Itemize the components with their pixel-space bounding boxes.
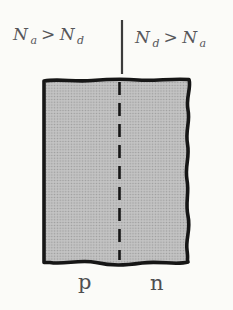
p-region-label: p <box>78 272 91 293</box>
semiconductor-block <box>44 79 190 265</box>
junction-diagram-canvas <box>0 0 233 310</box>
n-region-label: n <box>150 273 164 294</box>
pn-junction-figure: Na>Nd Nd>Na p n <box>0 0 233 310</box>
